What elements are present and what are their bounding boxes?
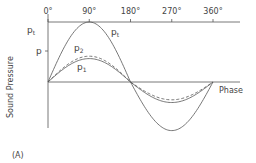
curve-p1	[48, 59, 213, 103]
label-p2: p2	[74, 43, 84, 54]
y-label-pt: pt	[27, 25, 36, 36]
x-axis-label: Phase	[219, 86, 243, 95]
x-tick-label: 270°	[162, 7, 181, 16]
x-tick-label: 360°	[203, 7, 222, 16]
top-axis-ticks: 0°90°180°270°360°	[43, 7, 222, 22]
x-tick-label: 90°	[82, 7, 96, 16]
x-tick-label: 180°	[121, 7, 140, 16]
label-p1: p1	[77, 62, 87, 73]
panel-label: (A)	[12, 151, 24, 160]
y-label-p: p	[36, 46, 42, 56]
y-axis-label: Sound Pressure	[6, 56, 15, 118]
sound-pressure-phase-chart: 0°90°180°270°360° pt p pt p2 p1 Phase So…	[0, 0, 256, 163]
label-pt: pt	[111, 27, 120, 38]
curve-pt	[48, 22, 213, 131]
